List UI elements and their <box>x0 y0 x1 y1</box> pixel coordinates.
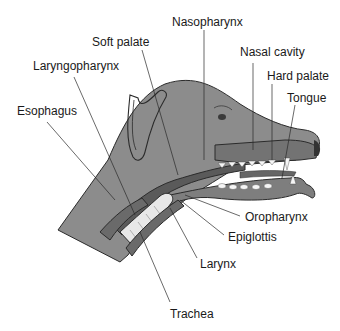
leader-esophagus <box>47 122 115 200</box>
label-hard-palate: Hard palate <box>267 69 329 83</box>
label-larynx: Larynx <box>200 257 236 271</box>
nasal-cavity-region <box>215 140 318 163</box>
tongue <box>240 171 296 179</box>
label-epiglottis: Epiglottis <box>228 230 277 244</box>
eye <box>218 114 226 120</box>
leader-larynx <box>170 208 197 258</box>
label-esophagus: Esophagus <box>17 104 77 118</box>
label-tongue: Tongue <box>287 91 327 105</box>
label-trachea: Trachea <box>170 307 214 321</box>
leader-epiglottis <box>180 200 224 235</box>
label-nasal-cavity: Nasal cavity <box>240 45 305 59</box>
leader-trachea <box>140 232 170 302</box>
dog-head-anatomy-diagram: Soft palate Nasopharynx Nasal cavity Lar… <box>0 0 340 331</box>
label-nasopharynx: Nasopharynx <box>172 15 243 29</box>
label-oropharynx: Oropharynx <box>245 210 308 224</box>
label-soft-palate: Soft palate <box>92 35 150 49</box>
label-laryngopharynx: Laryngopharynx <box>33 59 119 73</box>
